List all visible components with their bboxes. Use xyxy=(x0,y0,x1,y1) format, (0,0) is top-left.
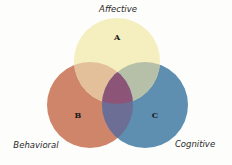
letter-c: C xyxy=(152,110,158,120)
letter-b: B xyxy=(75,110,82,120)
label-behavioral: Behavioral xyxy=(13,140,58,150)
label-affective: Affective xyxy=(99,4,137,14)
letter-a: A xyxy=(114,32,120,42)
label-cognitive: Cognitive xyxy=(175,139,215,149)
